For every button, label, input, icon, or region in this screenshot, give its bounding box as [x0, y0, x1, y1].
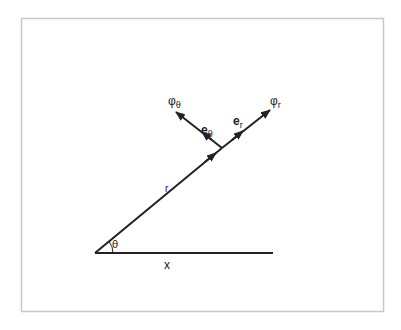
x-label: x [164, 258, 170, 272]
theta-label: θ [112, 238, 118, 250]
diagram-canvas: φθ φr eθ er r θ x [0, 0, 401, 330]
